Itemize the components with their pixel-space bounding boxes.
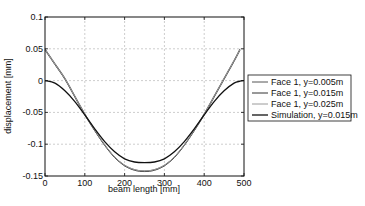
y-tick-label: -0.15 [22, 171, 43, 181]
series-line [45, 50, 240, 171]
x-tick-label: 400 [197, 178, 212, 188]
plot-curves [45, 49, 244, 172]
legend-entry: Face 1, y=0.025m [271, 99, 343, 109]
series-line [45, 49, 240, 171]
y-tick-label: -0.05 [22, 107, 43, 117]
y-tick-label: 0.05 [25, 44, 43, 54]
x-tick-label: 0 [42, 178, 47, 188]
x-tick-label: 100 [77, 178, 92, 188]
legend-entry: Face 1, y=0.015m [271, 88, 343, 98]
y-tick-label: 0 [38, 76, 43, 86]
y-axis-label: displacement [mm] [3, 58, 13, 134]
legend-entry: Face 1, y=0.005m [271, 77, 343, 87]
legend-entry: Simulation, y=0.015m [271, 110, 358, 120]
legend: Face 1, y=0.005mFace 1, y=0.015mFace 1, … [248, 75, 358, 121]
x-tick-label: 500 [236, 178, 251, 188]
series-line [45, 49, 240, 170]
y-tick-label: 0.1 [30, 12, 43, 22]
series-line [45, 81, 244, 163]
y-tick-label: -0.1 [27, 139, 43, 149]
x-axis-label: beam length [mm] [108, 184, 180, 194]
y-axis-ticks: 0.10.050-0.05-0.1-0.15 [22, 12, 244, 181]
line-chart: 0100200300400500 0.10.050-0.05-0.1-0.15 … [0, 0, 365, 206]
